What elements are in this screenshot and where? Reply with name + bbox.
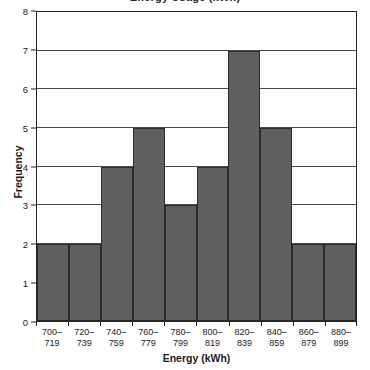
x-tick-label-line: 739 [68, 338, 100, 349]
x-tick-label-740-759: 740–759 [100, 327, 132, 349]
x-tick-label-line: 879 [293, 338, 325, 349]
x-tick-label-line: 840– [261, 327, 293, 338]
x-tick-label-line: 719 [36, 338, 68, 349]
y-tick-label-8: 8 [23, 6, 28, 17]
chart-title-clipped: Energy Usage (kWh) [0, 0, 370, 6]
x-tick-label-line: 740– [100, 327, 132, 338]
chart-title: Energy Usage (kWh) [0, 0, 370, 3]
bar-720-739[interactable] [69, 244, 101, 321]
x-axis-title: Energy (kWh) [36, 352, 357, 364]
x-tick-label-line: 899 [325, 338, 357, 349]
x-tick-label-840-859: 840–859 [261, 327, 293, 349]
bar-740-759[interactable] [101, 167, 133, 322]
x-axis-labels: 700–719720–739740–759760–779780–799800–8… [36, 327, 357, 349]
y-tick-label-0: 0 [23, 317, 28, 328]
x-tick-label-700-719: 700–719 [36, 327, 68, 349]
x-tick-label-880-899: 880–899 [325, 327, 357, 349]
x-tick-label-800-819: 800–819 [196, 327, 228, 349]
x-tick-mark-800-819 [196, 322, 197, 326]
x-tick-label-line: 799 [164, 338, 196, 349]
bar-820-839[interactable] [228, 51, 260, 321]
x-tick-label-line: 779 [132, 338, 164, 349]
x-tick-label-720-739: 720–739 [68, 327, 100, 349]
y-axis-title: Frequency [12, 122, 24, 222]
x-tick-label-line: 700– [36, 327, 68, 338]
x-tick-label-820-839: 820–839 [229, 327, 261, 349]
x-tick-label-860-879: 860–879 [293, 327, 325, 349]
bar-760-779[interactable] [133, 128, 165, 321]
x-tick-mark-880-899 [325, 322, 326, 326]
histogram-figure: Energy Usage (kWh) 012345678 Frequency 7… [0, 0, 370, 370]
x-tick-mark-760-779 [132, 322, 133, 326]
x-tick-mark-700-719 [36, 322, 37, 326]
x-tick-label-780-799: 780–799 [164, 327, 196, 349]
x-tick-label-line: 820– [229, 327, 261, 338]
x-tick-mark-820-839 [229, 322, 230, 326]
bar-840-859[interactable] [260, 128, 292, 321]
x-tick-label-line: 720– [68, 327, 100, 338]
y-tick-label-6: 6 [23, 83, 28, 94]
bar-700-719[interactable] [37, 244, 69, 321]
x-tick-label-line: 759 [100, 338, 132, 349]
bar-880-899[interactable] [324, 244, 356, 321]
y-tick-label-1: 1 [23, 278, 28, 289]
bar-800-819[interactable] [197, 167, 229, 322]
x-tick-mark-860-879 [293, 322, 294, 326]
x-tick-label-line: 839 [229, 338, 261, 349]
bars-container [37, 12, 356, 321]
y-tick-label-2: 2 [23, 239, 28, 250]
plot-area [36, 11, 357, 322]
x-tick-label-line: 800– [196, 327, 228, 338]
x-tick-mark-end [356, 322, 357, 326]
x-tick-mark-840-859 [261, 322, 262, 326]
x-tick-label-line: 819 [196, 338, 228, 349]
x-tick-label-line: 780– [164, 327, 196, 338]
bar-860-879[interactable] [292, 244, 324, 321]
x-tick-label-line: 760– [132, 327, 164, 338]
x-tick-mark-720-739 [68, 322, 69, 326]
x-tick-label-line: 880– [325, 327, 357, 338]
x-tick-label-760-779: 760–779 [132, 327, 164, 349]
x-tick-label-line: 859 [261, 338, 293, 349]
x-tick-mark-780-799 [164, 322, 165, 326]
bar-780-799[interactable] [165, 205, 197, 321]
y-tick-label-7: 7 [23, 44, 28, 55]
x-tick-mark-740-759 [100, 322, 101, 326]
x-tick-label-line: 860– [293, 327, 325, 338]
